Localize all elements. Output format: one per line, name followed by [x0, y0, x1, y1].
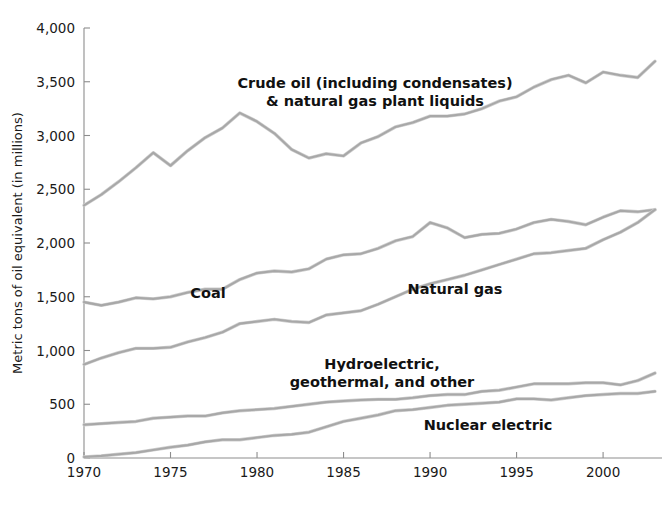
series-line — [84, 210, 655, 365]
series-label-line: Coal — [190, 285, 225, 301]
series-label-line: Nuclear electric — [424, 417, 553, 433]
y-tick-label: 1,000 — [36, 343, 75, 359]
series-inline-label: Crude oil (including condensates)& natur… — [237, 75, 512, 109]
series-lines-group — [84, 61, 655, 457]
y-tick-label: 1,500 — [36, 289, 75, 305]
series-line-shadow — [84, 210, 655, 365]
series-inline-label: Natural gas — [408, 281, 503, 297]
x-tick-label: 1995 — [499, 464, 533, 480]
series-line — [84, 210, 655, 306]
series-label-line: Hydroelectric, — [324, 356, 439, 372]
y-tick-label: 2,500 — [36, 181, 75, 197]
x-axis-ticks: 1970197519801985199019952000 — [67, 452, 620, 480]
x-tick-label: 1970 — [67, 464, 101, 480]
x-tick-label: 1975 — [153, 464, 187, 480]
chart-figure: Metric tons of oil equivalent (in millio… — [0, 0, 671, 518]
y-tick-label: 3,000 — [36, 128, 75, 144]
series-inline-label: Coal — [190, 285, 225, 301]
energy-consumption-line-chart: Metric tons of oil equivalent (in millio… — [0, 0, 671, 518]
y-tick-label: 3,500 — [36, 74, 75, 90]
series-label-line: Crude oil (including condensates) — [237, 75, 512, 91]
series-line-shadow — [84, 210, 655, 306]
series-labels-group: Crude oil (including condensates)& natur… — [190, 75, 552, 433]
y-tick-label: 500 — [49, 396, 75, 412]
x-tick-label: 1980 — [240, 464, 274, 480]
y-tick-label: 4,000 — [36, 20, 75, 36]
series-label-line: & natural gas plant liquids — [266, 93, 484, 109]
y-axis-title-group: Metric tons of oil equivalent (in millio… — [10, 112, 25, 374]
y-axis-title: Metric tons of oil equivalent (in millio… — [10, 112, 25, 374]
x-tick-label: 2000 — [586, 464, 620, 480]
y-axis-ticks: 05001,0001,5002,0002,5003,0003,5004,000 — [36, 20, 90, 466]
series-inline-label: Hydroelectric,geothermal, and other — [290, 356, 475, 390]
x-tick-label: 1985 — [326, 464, 360, 480]
series-inline-label: Nuclear electric — [424, 417, 553, 433]
y-tick-label: 2,000 — [36, 235, 75, 251]
series-label-line: Natural gas — [408, 281, 503, 297]
x-tick-label: 1990 — [413, 464, 447, 480]
series-label-line: geothermal, and other — [290, 374, 475, 390]
